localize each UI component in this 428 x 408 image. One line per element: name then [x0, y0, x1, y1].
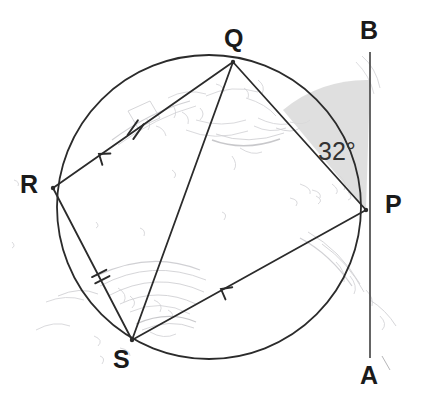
point-label-S: S — [113, 347, 130, 372]
angle-label-32-degrees: 32° — [318, 139, 356, 164]
chord-SP — [132, 210, 366, 340]
vertex-dot-Q — [231, 60, 235, 64]
geometry-diagram: Q R S P B A 32° — [0, 0, 428, 408]
vertex-dot-S — [130, 338, 134, 342]
point-label-Q: Q — [224, 26, 243, 51]
chord-RS — [53, 188, 132, 340]
point-label-B: B — [360, 18, 378, 43]
point-label-A: A — [360, 363, 378, 388]
vertex-dot-R — [51, 186, 55, 190]
geometry-canvas — [0, 0, 428, 408]
point-label-P: P — [385, 192, 402, 217]
point-label-R: R — [20, 172, 38, 197]
arrow-marks-group — [95, 148, 232, 299]
vertex-dot-P — [364, 208, 368, 212]
